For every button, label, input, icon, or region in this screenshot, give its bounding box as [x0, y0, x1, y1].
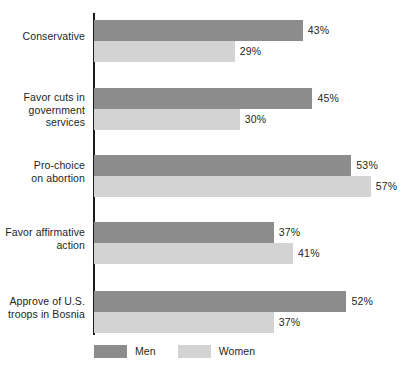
bar-value-men: 52% — [351, 296, 373, 307]
grouped-bar-chart: Conservative 43% 29% Favor cuts in gover… — [0, 0, 413, 373]
bar-value-women: 29% — [240, 46, 262, 57]
chart-legend: Men Women — [94, 344, 255, 358]
bar-value-women: 37% — [279, 317, 301, 328]
bar-value-men: 45% — [317, 93, 339, 104]
category-label: Favor affirmative action — [0, 226, 85, 251]
bar-men — [94, 20, 303, 41]
bar-group-bosnia: Approve of U.S. troops in Bosnia 52% 37% — [0, 291, 413, 333]
bar-women — [94, 109, 240, 130]
bar-men — [94, 291, 346, 312]
bar-men — [94, 222, 274, 243]
legend-label-women: Women — [219, 345, 256, 357]
bar-group-pro-choice: Pro-choice on abortion 53% 57% — [0, 155, 413, 197]
bar-women — [94, 312, 274, 333]
bar-value-men: 53% — [356, 160, 378, 171]
women-swatch-icon — [178, 345, 211, 358]
bar-men — [94, 88, 312, 109]
bar-group-conservative: Conservative 43% 29% — [0, 20, 413, 62]
bar-women — [94, 243, 293, 264]
bar-women — [94, 176, 371, 197]
category-label: Approve of U.S. troops in Bosnia — [0, 295, 85, 320]
legend-item-women: Women — [178, 345, 256, 358]
bar-group-affirmative-action: Favor affirmative action 37% 41% — [0, 222, 413, 264]
bar-value-men: 37% — [279, 227, 301, 238]
bar-men — [94, 155, 351, 176]
bar-value-women: 41% — [298, 248, 320, 259]
bar-value-men: 43% — [308, 25, 330, 36]
men-swatch-icon — [94, 345, 127, 358]
category-label: Conservative — [0, 30, 85, 43]
category-label: Pro-choice on abortion — [0, 159, 85, 184]
bar-women — [94, 41, 235, 62]
legend-label-men: Men — [135, 345, 156, 357]
legend-item-men: Men — [94, 345, 156, 358]
category-label: Favor cuts in government services — [0, 91, 85, 129]
bar-value-women: 30% — [245, 114, 267, 125]
bar-value-women: 57% — [376, 181, 398, 192]
bar-group-favor-cuts: Favor cuts in government services 45% 30… — [0, 88, 413, 130]
